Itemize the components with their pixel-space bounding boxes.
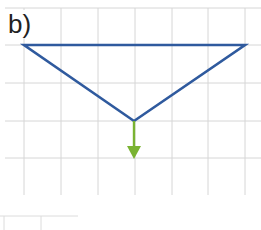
arrow-down-icon xyxy=(127,121,141,159)
figure-label: b) xyxy=(8,10,32,38)
table-fragment xyxy=(0,216,78,230)
grid xyxy=(5,8,261,195)
diagram-canvas xyxy=(0,0,261,230)
